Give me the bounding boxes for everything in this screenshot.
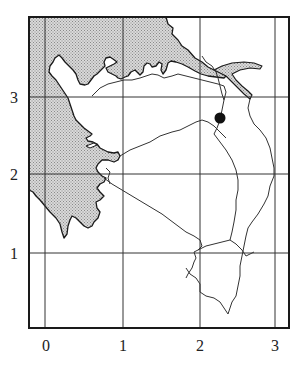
y-axis-labels: 3 2 1 xyxy=(10,89,18,262)
y-tick-3: 3 xyxy=(10,89,18,106)
river-south-loop xyxy=(186,268,232,314)
x-tick-3: 3 xyxy=(271,337,279,354)
map: 0 1 2 3 3 2 1 xyxy=(0,0,299,373)
river-east xyxy=(232,99,274,302)
x-axis-labels: 0 1 2 3 xyxy=(42,337,279,354)
river-central xyxy=(120,120,226,156)
sea-area xyxy=(29,17,226,238)
x-tick-2: 2 xyxy=(196,337,204,354)
river-top-branch xyxy=(202,56,238,240)
estuary xyxy=(214,62,262,99)
location-marker xyxy=(215,113,226,124)
x-tick-0: 0 xyxy=(42,337,50,354)
river-north xyxy=(92,74,226,100)
y-tick-1: 1 xyxy=(10,245,18,262)
river-south-connector xyxy=(198,240,254,256)
river-southwest xyxy=(104,178,202,278)
x-tick-1: 1 xyxy=(119,337,127,354)
y-tick-2: 2 xyxy=(10,166,18,183)
